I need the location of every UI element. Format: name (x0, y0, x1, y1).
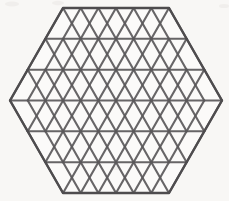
smudge-mark-right (219, 4, 229, 8)
figure-root: Hexagon subdivided into equilateral tria… (0, 0, 229, 201)
smudge-mark-top (5, 2, 19, 7)
smudge-mark-upper (52, 1, 64, 5)
triangulated-hexagon-svg (0, 0, 229, 201)
